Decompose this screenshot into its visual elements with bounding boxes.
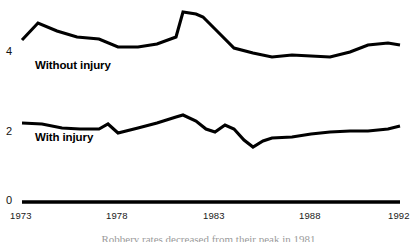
- line-chart: 4 2 0 1973 1978 1983 1988 1992 Without i…: [0, 0, 417, 242]
- y-tick-label-2: 2: [6, 125, 12, 137]
- y-tick-label-0: 0: [6, 194, 12, 206]
- x-tick-label-1983: 1983: [203, 210, 225, 221]
- y-tick-label-4: 4: [6, 45, 12, 57]
- x-tick-label-1978: 1978: [106, 210, 128, 221]
- x-tick-label-1992: 1992: [388, 210, 410, 221]
- series-line-without-injury: [22, 12, 400, 57]
- x-tick-label-1988: 1988: [299, 210, 321, 221]
- series-label-with-injury: With injury: [35, 131, 93, 143]
- chart-caption: Robbery rates decreased from their peak …: [0, 233, 417, 242]
- x-tick-label-1973: 1973: [10, 210, 32, 221]
- series-label-without-injury: Without injury: [35, 59, 111, 71]
- plot-area: [0, 0, 417, 242]
